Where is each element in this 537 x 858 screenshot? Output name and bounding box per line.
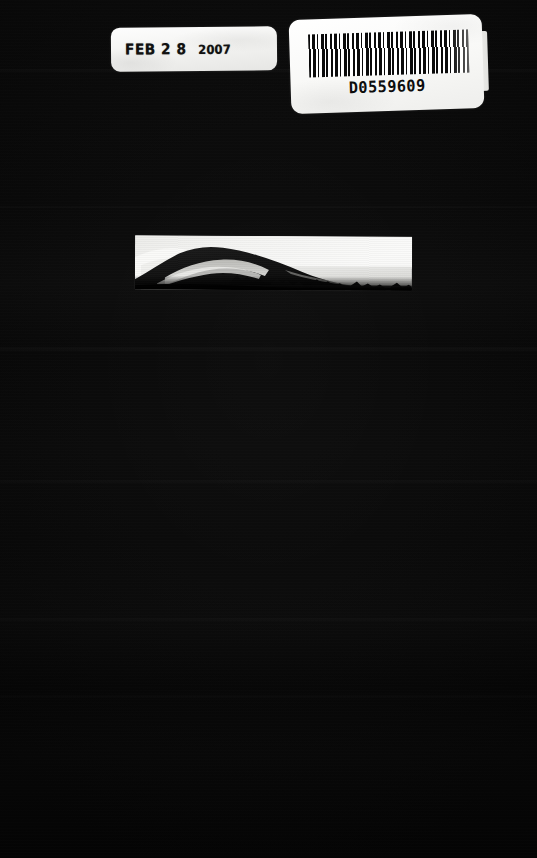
date-stamp-year: 2007	[198, 42, 231, 57]
date-stamp-text: FEB 2 8 2007	[125, 40, 231, 59]
date-stamp-label: FEB 2 8 2007	[111, 26, 277, 71]
date-stamp-month: FEB	[125, 40, 156, 58]
barcode-label-body: D0559609	[289, 14, 485, 114]
scanned-page: FEB 2 8 2007 D0559609	[0, 0, 537, 858]
cover-photo-image	[135, 235, 412, 290]
cover-photo-strip	[135, 235, 412, 290]
page-vignette	[0, 0, 537, 858]
barcode-label: D0559609	[289, 14, 485, 114]
barcode-bars-icon	[308, 29, 469, 77]
date-stamp-day: 2 8	[161, 40, 187, 58]
barcode-number-text: D0559609	[295, 74, 479, 99]
